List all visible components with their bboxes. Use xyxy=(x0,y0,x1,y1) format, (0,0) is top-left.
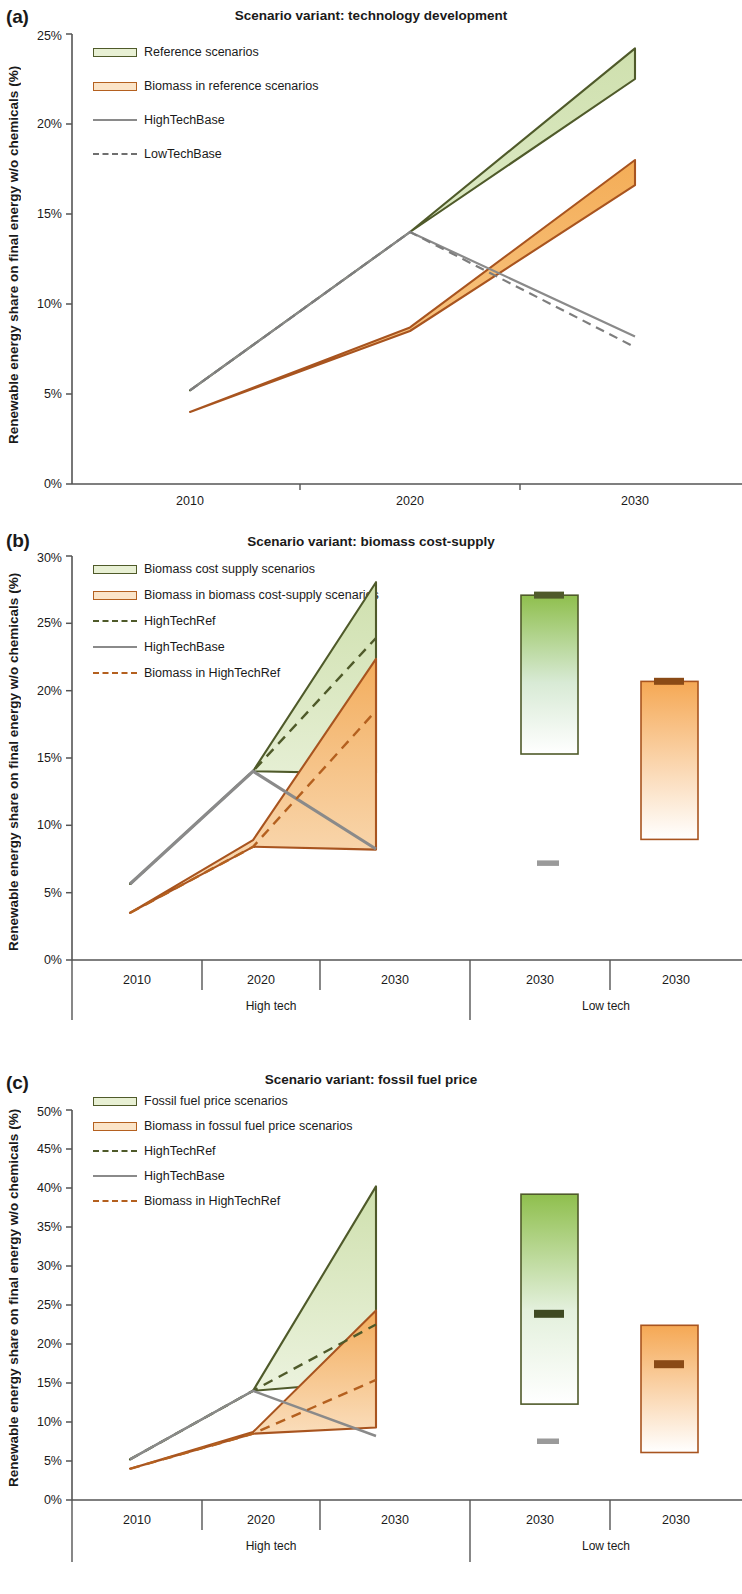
panel-b: (b) Scenario variant: biomass cost-suppl… xyxy=(0,520,742,1050)
x-tick-label: 2030 xyxy=(526,1513,554,1527)
panel-b-x-category-axis: 2010 2020 2030 2030 2030 High tech Low t… xyxy=(72,960,690,1020)
x-group-label: Low tech xyxy=(582,999,630,1013)
band-biomass-reference-scenarios xyxy=(190,160,635,412)
x-tick-label: 2030 xyxy=(526,973,554,987)
y-tick-label: 35% xyxy=(37,1220,62,1234)
line-lowtechbase xyxy=(190,232,635,390)
x-tick-label: 2020 xyxy=(247,973,275,987)
y-tick-label: 30% xyxy=(37,1259,62,1273)
x-tick-label: 2030 xyxy=(662,973,690,987)
bar-biomass-cost-supply-lowtech xyxy=(521,595,578,754)
y-tick-label: 15% xyxy=(37,751,62,765)
y-tick-label: 15% xyxy=(37,1376,62,1390)
x-tick-label: 2010 xyxy=(176,494,204,508)
panel-a-x-ticks: 2010 2020 2030 xyxy=(176,484,649,508)
panel-b-y-ticks: 0% 5% 10% 15% 20% 25% 30% xyxy=(37,551,72,967)
x-tick-label: 2010 xyxy=(123,1513,151,1527)
panel-c-plot: 0% 5% 10% 15% 20% 25% 30% 35% 40% 45% 50… xyxy=(0,1050,742,1594)
y-tick-label: 0% xyxy=(44,477,62,491)
bar-biomass-in-cost-supply-lowtech xyxy=(641,681,698,839)
line-hightechbase xyxy=(190,232,635,390)
panel-c: (c) Scenario variant: fossil fuel price … xyxy=(0,1050,742,1594)
y-tick-label: 30% xyxy=(37,551,62,565)
x-tick-label: 2020 xyxy=(247,1513,275,1527)
y-tick-label: 0% xyxy=(44,953,62,967)
y-tick-label: 25% xyxy=(37,616,62,630)
bar-marker-orange xyxy=(654,1360,684,1368)
y-tick-label: 10% xyxy=(37,1415,62,1429)
panel-c-x-category-axis: 2010 2020 2030 2030 2030 High tech Low t… xyxy=(72,1500,690,1562)
y-tick-label: 10% xyxy=(37,818,62,832)
y-tick-label: 45% xyxy=(37,1142,62,1156)
x-group-label: Low tech xyxy=(582,1539,630,1553)
panel-a: (a) Scenario variant: technology develop… xyxy=(0,0,742,520)
bar-marker-green xyxy=(534,1310,564,1318)
y-tick-label: 20% xyxy=(37,684,62,698)
y-tick-label: 20% xyxy=(37,1337,62,1351)
bar-biomass-in-fossil-fuel-price-lowtech xyxy=(641,1325,698,1452)
marker-lowtechbase-grey xyxy=(537,860,559,866)
y-tick-label: 50% xyxy=(37,1105,62,1119)
x-tick-label: 2030 xyxy=(381,1513,409,1527)
y-tick-label: 5% xyxy=(44,1454,62,1468)
x-tick-label: 2030 xyxy=(662,1513,690,1527)
bar-marker-orange xyxy=(654,678,684,685)
y-tick-label: 5% xyxy=(44,387,62,401)
panel-b-plot: 0% 5% 10% 15% 20% 25% 30% 2010 2020 2030… xyxy=(0,520,742,1050)
bar-fossil-fuel-price-lowtech xyxy=(521,1194,578,1404)
y-tick-label: 0% xyxy=(44,1493,62,1507)
panel-a-y-ticks: 0% 5% 10% 15% 20% 25% xyxy=(37,29,72,491)
x-group-label: High tech xyxy=(246,1539,297,1553)
y-tick-label: 5% xyxy=(44,886,62,900)
y-tick-label: 40% xyxy=(37,1181,62,1195)
x-tick-label: 2030 xyxy=(621,494,649,508)
x-tick-label: 2010 xyxy=(123,973,151,987)
y-tick-label: 10% xyxy=(37,297,62,311)
x-tick-label: 2020 xyxy=(396,494,424,508)
x-group-label: High tech xyxy=(246,999,297,1013)
marker-lowtechbase-grey xyxy=(537,1439,559,1445)
y-tick-label: 15% xyxy=(37,207,62,221)
panel-c-y-ticks: 0% 5% 10% 15% 20% 25% 30% 35% 40% 45% 50… xyxy=(37,1105,72,1507)
x-tick-label: 2030 xyxy=(381,973,409,987)
y-tick-label: 25% xyxy=(37,29,62,43)
bar-marker-green xyxy=(534,592,564,599)
y-tick-label: 20% xyxy=(37,117,62,131)
y-tick-label: 25% xyxy=(37,1298,62,1312)
panel-a-plot: 0% 5% 10% 15% 20% 25% 2010 2020 2030 xyxy=(0,0,742,520)
